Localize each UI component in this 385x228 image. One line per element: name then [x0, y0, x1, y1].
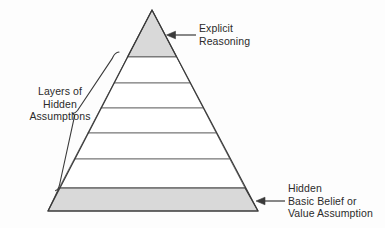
label-hidden-basic-belief: Hidden Basic Belief or Value Assumption — [288, 182, 373, 220]
label-layers-of-hidden-assumptions: Layers of Hidden Assumptions — [8, 85, 112, 123]
label-explicit-reasoning-line2: Reasoning — [199, 35, 250, 48]
label-hidden-basic-belief-line2: Basic Belief or — [288, 195, 373, 208]
pyramid-band-hidden-2 — [101, 83, 203, 108]
pyramid-band-explicit-reasoning — [127, 10, 176, 57]
label-hidden-basic-belief-line3: Value Assumption — [288, 207, 373, 220]
basic-belief-arrow — [256, 197, 285, 205]
explicit-reasoning-arrow — [167, 31, 197, 39]
label-hidden-basic-belief-line1: Hidden — [288, 182, 373, 195]
label-explicit-reasoning-line1: Explicit — [199, 22, 250, 35]
label-layers-line1: Layers of — [8, 85, 112, 98]
pyramid-band-hidden-4 — [74, 133, 230, 159]
label-layers-line3: Assumptions — [8, 110, 112, 123]
label-layers-line2: Hidden — [8, 98, 112, 111]
pyramid-band-hidden-5 — [59, 159, 245, 188]
pyramid-band-basic-belief — [48, 188, 258, 211]
label-explicit-reasoning: Explicit Reasoning — [199, 22, 250, 47]
diagram-canvas: Explicit Reasoning Hidden Basic Belief o… — [0, 0, 385, 228]
